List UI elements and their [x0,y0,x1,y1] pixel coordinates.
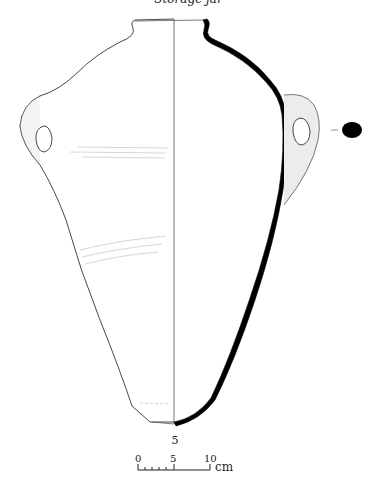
jar-section-profile [174,19,287,426]
right-handle-hole [293,118,310,145]
handle-cross-section [342,122,362,138]
right-handle [284,94,319,205]
scale-label-0: 0 [135,453,141,464]
scale-bar: 0 5 10 cm [135,453,234,474]
surface-marks [70,147,170,404]
catalogue-number: 5 [168,434,182,447]
scale-label-5: 5 [170,453,176,464]
scale-unit: cm [215,460,234,474]
pottery-drawing: 0 5 10 cm [0,0,377,477]
left-handle-hole [36,126,52,152]
jar-exterior-outline [20,19,174,422]
